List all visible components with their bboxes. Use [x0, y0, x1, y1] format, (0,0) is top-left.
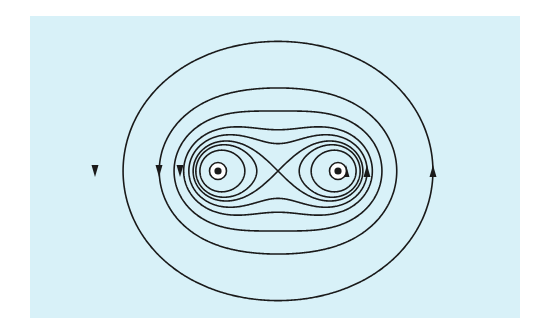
arrow-up-icon: [364, 165, 371, 177]
arrow-down-icon: [156, 165, 163, 177]
direction-arrows: [92, 165, 437, 177]
arrow-down-icon: [177, 165, 184, 177]
arrow-up-icon: [430, 165, 437, 177]
right-wire-current-out-icon: [330, 163, 347, 180]
left-wire-current-out-icon: [210, 163, 227, 180]
field-line-diagram: [0, 0, 553, 333]
field-lines: [123, 41, 433, 300]
arrow-down-icon: [92, 165, 99, 177]
